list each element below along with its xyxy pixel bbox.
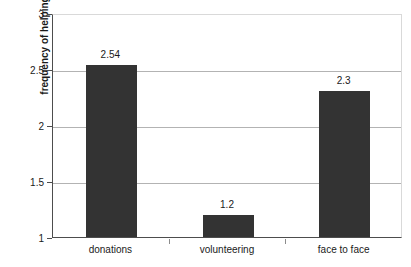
x-tick-mark [285,239,286,244]
y-tick-label: 2 [0,121,44,132]
y-tick-label: 1 [0,233,44,244]
bar [86,65,137,237]
bar [203,215,254,237]
x-tick-mark [169,239,170,244]
y-tick-label: 3 [0,9,44,20]
y-tick-label: 1.5 [0,177,44,188]
bar-value-label: 1.2 [220,199,234,210]
y-axis-ticks: 11.522.53 [0,0,52,267]
y-tick-label: 2.5 [0,65,44,76]
bar [319,91,370,237]
bar-value-label: 2.3 [337,75,351,86]
y-tick-mark [47,238,52,239]
x-tick-label: volunteering [200,244,254,255]
x-tick-label: donations [89,244,132,255]
bar-value-label: 2.54 [101,49,120,60]
x-tick-label: face to face [318,244,370,255]
bar-chart: frequency of helping 11.522.53 donations… [0,0,411,267]
